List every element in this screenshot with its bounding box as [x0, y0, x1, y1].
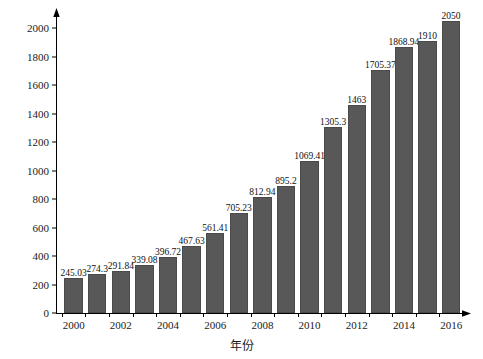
- x-tick-mark: [227, 313, 228, 317]
- bar: 1069.41: [300, 161, 318, 313]
- y-tick-mark: [52, 85, 56, 86]
- bar: 812.94: [253, 197, 271, 313]
- bar-value-label: 274.3: [87, 264, 108, 274]
- bar-value-label: 1868.94: [388, 37, 419, 47]
- x-tick-mark: [416, 313, 417, 317]
- bar-chart-figure: 天然气表观消费量/108m3 年份 0200400600800100012001…: [0, 0, 483, 359]
- y-tick-mark: [52, 56, 56, 57]
- x-tick-mark: [203, 313, 204, 317]
- bar-value-label: 1305.3: [320, 117, 346, 127]
- bar: 705.23: [230, 213, 248, 313]
- bar-value-label: 812.94: [249, 187, 275, 197]
- x-tick-mark: [321, 313, 322, 317]
- bar: 396.72: [159, 257, 177, 313]
- y-tick-mark: [52, 142, 56, 143]
- x-tick-mark: [133, 313, 134, 317]
- bar: 274.3: [88, 274, 106, 313]
- bar: 1305.3: [324, 127, 342, 313]
- bar: 467.63: [182, 246, 200, 313]
- bar: 2050: [442, 21, 460, 313]
- bar: 1705.37: [371, 70, 389, 313]
- x-tick-label: 2008: [251, 319, 273, 331]
- x-tick-label: 2004: [157, 319, 179, 331]
- bar-value-label: 895.2: [275, 176, 296, 186]
- x-tick-mark: [109, 313, 110, 317]
- bar-value-label: 1910: [418, 31, 437, 41]
- x-tick-mark: [156, 313, 157, 317]
- bar-value-label: 245.03: [61, 268, 87, 278]
- x-tick-label: 2012: [346, 319, 368, 331]
- x-tick-mark: [85, 313, 86, 317]
- bar-value-label: 396.72: [155, 247, 181, 257]
- y-tick-mark: [52, 284, 56, 285]
- x-tick-mark: [251, 313, 252, 317]
- bar-value-label: 705.23: [226, 203, 252, 213]
- bar-value-label: 561.41: [202, 223, 228, 233]
- x-tick-mark: [298, 313, 299, 317]
- bar: 339.08: [135, 265, 153, 313]
- x-tick-mark: [180, 313, 181, 317]
- x-tick-label: 2000: [63, 319, 85, 331]
- y-tick-mark: [52, 28, 56, 29]
- bar: 1868.94: [395, 47, 413, 313]
- bar-value-label: 339.08: [131, 255, 157, 265]
- bar: 1463: [348, 105, 366, 313]
- y-tick-mark: [52, 313, 56, 314]
- x-tick-label: 2002: [110, 319, 132, 331]
- y-tick-mark: [52, 256, 56, 257]
- bar-value-label: 291.84: [108, 261, 134, 271]
- bar: 1910: [418, 41, 436, 313]
- bar-value-label: 1069.41: [294, 151, 325, 161]
- bar: 245.03: [64, 278, 82, 313]
- x-tick-label: 2006: [204, 319, 226, 331]
- bar: 895.2: [277, 186, 295, 313]
- bar-value-label: 1705.37: [365, 60, 396, 70]
- y-tick-mark: [52, 227, 56, 228]
- plot-area: 0200400600800100012001400160018002000 24…: [56, 14, 470, 313]
- x-tick-mark: [439, 313, 440, 317]
- x-tick-mark: [274, 313, 275, 317]
- y-tick-mark: [52, 113, 56, 114]
- bar: 561.41: [206, 233, 224, 313]
- y-tick-mark: [52, 170, 56, 171]
- x-tick-mark: [62, 313, 63, 317]
- bar-value-label: 1463: [347, 95, 366, 105]
- x-tick-mark: [392, 313, 393, 317]
- x-tick-mark: [345, 313, 346, 317]
- bar-value-label: 467.63: [179, 236, 205, 246]
- x-tick-label: 2016: [440, 319, 462, 331]
- y-tick-mark: [52, 199, 56, 200]
- x-tick-mark: [369, 313, 370, 317]
- bar: 291.84: [112, 271, 130, 313]
- x-axis-label: 年份: [0, 336, 483, 354]
- x-tick-label: 2010: [299, 319, 321, 331]
- bar-value-label: 2050: [442, 11, 461, 21]
- x-tick-label: 2014: [393, 319, 415, 331]
